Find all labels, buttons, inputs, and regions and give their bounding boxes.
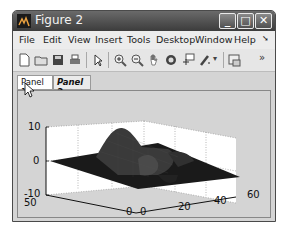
z-tick-label: 10 [28, 121, 41, 132]
toolbar-overflow-button[interactable]: » [259, 52, 265, 63]
menu-window[interactable]: Window [195, 34, 232, 45]
mouse-cursor-icon [24, 82, 36, 98]
title-bar[interactable]: Figure 2 _ □ ✕ [13, 11, 275, 31]
tab-panel-2[interactable]: Panel 2 [53, 75, 91, 90]
surface-plot[interactable] [18, 91, 272, 219]
toolbar-separator [223, 52, 224, 68]
figure-window: Figure 2 _ □ ✕ File Edit View Insert Too… [12, 10, 276, 222]
matlab-figure-icon [17, 14, 31, 28]
printer-icon[interactable] [68, 53, 82, 67]
close-icon: ✕ [256, 14, 271, 28]
y-tick-label: 0 [126, 206, 132, 217]
x-tick-label: 0 [140, 206, 146, 217]
figure-toolbar: ▾ » [13, 49, 275, 72]
zoom-out-icon[interactable] [130, 53, 144, 67]
menu-bar: File Edit View Insert Tools Desktop Wind… [13, 31, 275, 49]
brush-icon[interactable] [198, 53, 212, 67]
rotate-3d-icon[interactable] [164, 53, 178, 67]
link-plot-icon[interactable] [228, 53, 242, 67]
x-tick-label: 20 [178, 201, 191, 212]
menu-help[interactable]: Help [234, 34, 256, 45]
folder-open-icon[interactable] [34, 53, 48, 67]
toolbar-separator [86, 52, 87, 68]
y-tick-label: 50 [24, 197, 37, 208]
maximize-icon: □ [238, 14, 253, 28]
x-tick-label: 40 [214, 195, 227, 206]
toolbar-separator [108, 52, 109, 68]
window-title: Figure 2 [35, 13, 83, 27]
data-cursor-icon[interactable] [181, 53, 195, 67]
arrow-pointer-icon[interactable] [91, 53, 105, 67]
floppy-disk-icon[interactable] [51, 53, 65, 67]
menu-insert[interactable]: Insert [95, 34, 122, 45]
panel-1-content: 10 0 -10 50 0 0 20 40 60 [17, 90, 271, 218]
menu-desktop[interactable]: Desktop [156, 34, 195, 45]
menu-view[interactable]: View [68, 34, 91, 45]
menu-file[interactable]: File [19, 34, 35, 45]
hand-icon[interactable] [147, 53, 161, 67]
new-file-icon[interactable] [17, 53, 31, 67]
dropdown-arrow-icon[interactable]: ▾ [213, 54, 217, 63]
z-tick-label: 0 [33, 155, 39, 166]
close-button[interactable]: ✕ [255, 13, 272, 29]
x-tick-label: 60 [247, 189, 260, 200]
undock-arrow-icon[interactable]: ➘ [262, 34, 269, 43]
minimize-icon: _ [220, 14, 235, 28]
maximize-button[interactable]: □ [237, 13, 254, 29]
menu-tools[interactable]: Tools [127, 34, 150, 45]
menu-edit[interactable]: Edit [43, 34, 61, 45]
zoom-in-icon[interactable] [113, 53, 127, 67]
minimize-button[interactable]: _ [219, 13, 236, 29]
